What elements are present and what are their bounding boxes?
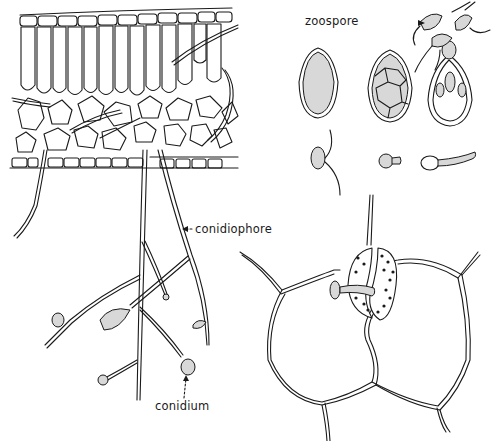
encysted-zoospore [330, 281, 340, 299]
label-conidiophore: conidiophore [195, 222, 272, 236]
label-conidium: conidium [155, 399, 209, 413]
sporangia-stages [299, 41, 472, 126]
leaf-cross-section [10, 8, 238, 238]
conidium [98, 375, 108, 385]
conidium [52, 313, 64, 327]
upper-epidermis [20, 8, 232, 26]
illustration-canvas [0, 0, 497, 441]
zoospore-germination [311, 130, 476, 195]
conidiophores [45, 150, 209, 400]
conidium-small [163, 294, 169, 300]
conidium [193, 321, 206, 329]
label-zoospore: zoospore [305, 14, 359, 28]
palisade-layer [21, 24, 221, 95]
conidium [100, 309, 130, 330]
conidium-labelled [181, 359, 195, 375]
epidermis-stoma [240, 195, 480, 441]
